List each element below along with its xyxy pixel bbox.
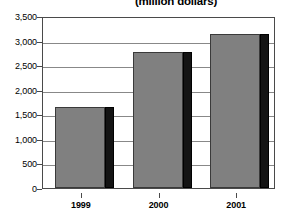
y-tick-label: 3,000 xyxy=(15,37,37,47)
x-tick-mark xyxy=(81,193,82,198)
x-tick-label: 2001 xyxy=(226,200,246,210)
x-tick-label: 1999 xyxy=(71,200,91,210)
y-tick-label: 1,500 xyxy=(15,110,37,120)
y-tick-label: 500 xyxy=(22,159,37,169)
y-tick-mark xyxy=(37,189,42,190)
y-tick-label: 2,500 xyxy=(15,61,37,71)
y-axis: 05001,0001,5002,0002,5003,0003,500 xyxy=(0,17,37,189)
y-tick-label: 3,500 xyxy=(15,12,37,22)
bar-body xyxy=(210,34,260,188)
x-tick-label: 2000 xyxy=(149,200,169,210)
y-tick-label: 2,000 xyxy=(15,86,37,96)
bar xyxy=(55,103,114,188)
bar-body xyxy=(133,52,183,188)
bar-shadow xyxy=(183,52,192,188)
y-tick-label: 1,000 xyxy=(15,135,37,145)
bar-body xyxy=(55,107,105,188)
chart-title: (million dollars) xyxy=(0,0,288,7)
bar-shadow xyxy=(260,34,269,188)
bar-chart: (million dollars) 05001,0001,5002,0002,5… xyxy=(0,0,288,218)
x-tick-mark xyxy=(236,193,237,198)
plot-area xyxy=(42,17,275,189)
bar-shadow xyxy=(105,107,114,188)
x-axis: 199920002001 xyxy=(42,193,275,215)
bar xyxy=(133,48,192,188)
bar xyxy=(210,30,269,188)
x-tick-mark xyxy=(159,193,160,198)
